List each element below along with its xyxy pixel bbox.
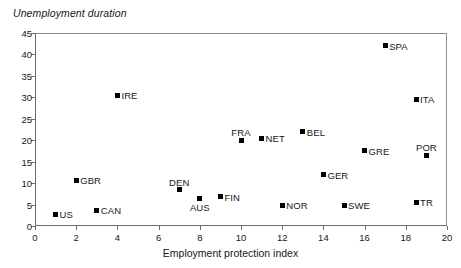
data-point-label: POR: [416, 142, 437, 153]
data-point-marker: [197, 196, 202, 201]
data-point-label: NOR: [286, 200, 307, 211]
chart-title: Unemployment duration: [13, 7, 127, 19]
data-point-label: GRE: [369, 145, 390, 156]
x-tick-label: 18: [401, 232, 412, 243]
x-tick-mark: [76, 226, 77, 230]
y-tick-label: 20: [21, 135, 32, 146]
data-point-label: CAN: [101, 205, 121, 216]
y-tick-label: 40: [21, 49, 32, 60]
y-tick-label: 10: [21, 178, 32, 189]
data-point-label: GER: [327, 169, 348, 180]
data-point-marker: [218, 194, 223, 199]
x-axis-label: Employment protection index: [0, 247, 461, 259]
x-tick-mark: [365, 226, 366, 230]
data-point-marker: [177, 187, 182, 192]
y-tick-label: 30: [21, 92, 32, 103]
data-point-label: NET: [266, 133, 285, 144]
data-point-marker: [342, 203, 347, 208]
plot-frame-right: [446, 33, 447, 226]
data-point-marker: [383, 43, 388, 48]
data-point-marker: [300, 129, 305, 134]
data-point-marker: [424, 153, 429, 158]
data-point-label: IRE: [121, 90, 137, 101]
data-point-marker: [115, 93, 120, 98]
x-tick-label: 14: [318, 232, 329, 243]
x-tick-label: 20: [442, 232, 453, 243]
x-tick-label: 6: [156, 232, 161, 243]
x-tick-label: 10: [236, 232, 247, 243]
x-tick-mark: [406, 226, 407, 230]
data-point-label: DEN: [169, 177, 189, 188]
data-point-marker: [362, 148, 367, 153]
x-tick-label: 12: [277, 232, 288, 243]
x-tick-label: 16: [359, 232, 370, 243]
scatter-chart-figure: Unemployment duration 051015202530354045…: [0, 0, 461, 268]
data-point-label: AUS: [190, 202, 210, 213]
data-point-marker: [94, 208, 99, 213]
x-tick-label: 8: [197, 232, 202, 243]
data-point-marker: [259, 136, 264, 141]
data-point-marker: [321, 172, 326, 177]
y-tick-label: 45: [21, 28, 32, 39]
y-tick-label: 0: [27, 221, 32, 232]
data-point-label: FIN: [224, 191, 240, 202]
data-point-marker: [239, 138, 244, 143]
y-tick-label: 5: [27, 199, 32, 210]
x-tick-label: 4: [115, 232, 120, 243]
data-point-marker: [414, 97, 419, 102]
data-point-label: SWE: [348, 200, 370, 211]
data-point-label: TR: [420, 197, 433, 208]
y-tick-label: 35: [21, 70, 32, 81]
data-point-label: GBR: [80, 175, 101, 186]
y-tick-label: 25: [21, 113, 32, 124]
x-tick-mark: [159, 226, 160, 230]
plot-frame-top: [35, 33, 447, 34]
data-point-label: SPA: [389, 40, 408, 51]
y-tick-label: 15: [21, 156, 32, 167]
x-tick-mark: [241, 226, 242, 230]
x-tick-label: 0: [32, 232, 37, 243]
x-tick-mark: [200, 226, 201, 230]
data-point-marker: [280, 203, 285, 208]
data-point-marker: [53, 212, 58, 217]
x-tick-mark: [447, 226, 448, 230]
plot-area: 051015202530354045 02468101214161820 USG…: [35, 33, 447, 226]
data-point-marker: [414, 200, 419, 205]
y-axis-line: [35, 33, 36, 226]
data-point-label: ITA: [420, 94, 434, 105]
data-point-label: FRA: [231, 127, 250, 138]
x-tick-mark: [323, 226, 324, 230]
data-point-label: US: [60, 209, 73, 220]
x-tick-mark: [282, 226, 283, 230]
x-tick-mark: [35, 226, 36, 230]
x-tick-mark: [117, 226, 118, 230]
x-tick-label: 2: [74, 232, 79, 243]
data-point-label: BEL: [307, 126, 325, 137]
data-point-marker: [74, 178, 79, 183]
